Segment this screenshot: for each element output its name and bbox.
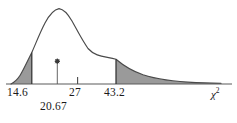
chi-exponent: 2 [216,86,220,95]
x-axis-title: χ2 [211,86,220,100]
distribution-plot-svg [0,0,237,123]
center-tick-label: 27 [69,86,81,98]
test-statistic-value-label: 20.67 [40,100,67,112]
lower-critical-value-label: 14.6 [7,86,28,98]
left-tail-shaded-region [11,53,32,85]
chi-square-distribution-figure: 14.6 27 43.2 20.67 χ2 [0,0,237,123]
test-statistic-asterisk-marker [55,59,60,64]
upper-critical-value-label: 43.2 [104,86,125,98]
